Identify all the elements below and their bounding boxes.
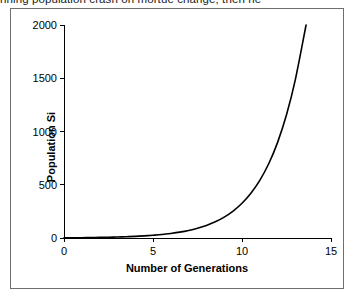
x-axis-tick-marks xyxy=(64,238,331,242)
population-growth-chart: 0500100015002000 051015 Number of Genera… xyxy=(11,9,343,288)
y-axis-tick-marks xyxy=(60,25,64,238)
y-tick-label: 1500 xyxy=(33,72,57,84)
chart-figure-frame: 0500100015002000 051015 Number of Genera… xyxy=(10,8,344,289)
x-tick-label: 0 xyxy=(61,245,67,257)
x-tick-label: 5 xyxy=(150,245,156,257)
clipped-document-title: nning population crash on mortue change;… xyxy=(0,0,354,6)
y-tick-label: 2000 xyxy=(33,19,57,31)
population-curve xyxy=(64,25,306,238)
x-axis-tick-labels: 051015 xyxy=(61,245,337,257)
x-axis-title: Number of Generations xyxy=(126,262,248,274)
y-axis-title: Population Si xyxy=(45,112,57,182)
x-tick-label: 15 xyxy=(325,245,337,257)
x-tick-label: 10 xyxy=(236,245,248,257)
y-tick-label: 0 xyxy=(51,232,57,244)
